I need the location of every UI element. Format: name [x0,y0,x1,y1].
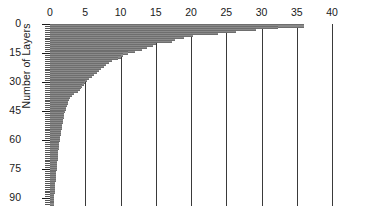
y-tick-78 [45,175,50,176]
y-tick-90 [42,198,50,199]
y-tick-label-90: 90 [0,191,21,203]
y-axis-tick-marks [42,24,50,206]
y-tick-30 [42,82,50,83]
y-tick-52 [45,125,50,126]
y-tick-label-0: 0 [0,17,21,29]
y-tick-label-15: 15 [0,46,21,58]
y-tick-5 [45,34,50,35]
y-tick-6 [45,36,50,37]
y-tick-16 [45,55,50,56]
y-tick-19 [45,61,50,62]
y-tick-69 [45,158,50,159]
y-tick-89 [45,196,50,197]
y-tick-70 [45,160,50,161]
y-tick-64 [45,148,50,149]
y-tick-14 [45,51,50,52]
y-tick-66 [45,152,50,153]
y-tick-51 [45,123,50,124]
y-tick-label-60: 60 [0,133,21,145]
y-tick-58 [45,136,50,137]
y-tick-18 [45,59,50,60]
y-tick-28 [45,78,50,79]
y-tick-83 [45,185,50,186]
y-tick-67 [45,154,50,155]
y-tick-2 [45,28,50,29]
y-tick-65 [45,150,50,151]
y-tick-29 [45,80,50,81]
y-tick-39 [45,100,50,101]
y-tick-20 [45,63,50,64]
y-tick-71 [45,161,50,162]
y-tick-47 [45,115,50,116]
y-tick-57 [45,134,50,135]
y-tick-10 [45,43,50,44]
y-tick-22 [45,67,50,68]
y-tick-21 [45,65,50,66]
y-tick-32 [45,86,50,87]
y-tick-25 [45,72,50,73]
y-tick-label-75: 75 [0,162,21,174]
y-tick-87 [45,192,50,193]
y-tick-24 [45,70,50,71]
y-tick-77 [45,173,50,174]
y-tick-45 [42,111,50,112]
y-tick-11 [45,45,50,46]
y-tick-49 [45,119,50,120]
y-tick-27 [45,76,50,77]
y-tick-54 [45,129,50,130]
y-tick-40 [45,101,50,102]
y-tick-61 [45,142,50,143]
y-tick-59 [45,138,50,139]
bar [50,202,54,205]
y-tick-74 [45,167,50,168]
y-tick-63 [45,146,50,147]
y-tick-62 [45,144,50,145]
y-tick-12 [45,47,50,48]
y-tick-46 [45,113,50,114]
gridline-x-40 [332,24,333,206]
y-tick-56 [45,132,50,133]
y-tick-0 [42,24,50,25]
y-tick-92 [45,202,50,203]
y-tick-75 [42,169,50,170]
y-tick-42 [45,105,50,106]
y-tick-91 [45,200,50,201]
y-tick-73 [45,165,50,166]
y-tick-4 [45,32,50,33]
y-tick-88 [45,194,50,195]
y-tick-48 [45,117,50,118]
y-tick-15 [42,53,50,54]
y-tick-80 [45,179,50,180]
y-tick-31 [45,84,50,85]
y-tick-13 [45,49,50,50]
y-tick-43 [45,107,50,108]
chart-container: Number of Layers 0510152025303540 015304… [0,0,367,212]
y-tick-8 [45,39,50,40]
y-tick-79 [45,177,50,178]
y-tick-85 [45,189,50,190]
bar-series [50,24,332,206]
y-tick-34 [45,90,50,91]
y-tick-7 [45,38,50,39]
y-tick-82 [45,183,50,184]
y-tick-33 [45,88,50,89]
y-tick-81 [45,181,50,182]
y-tick-35 [45,92,50,93]
y-tick-label-45: 45 [0,104,21,116]
y-tick-68 [45,156,50,157]
plot-area [50,24,332,206]
y-tick-84 [45,187,50,188]
y-tick-17 [45,57,50,58]
y-tick-44 [45,109,50,110]
y-tick-26 [45,74,50,75]
y-tick-37 [45,96,50,97]
y-tick-9 [45,41,50,42]
y-tick-50 [45,121,50,122]
y-tick-38 [45,98,50,99]
y-tick-3 [45,30,50,31]
y-tick-label-30: 30 [0,75,21,87]
y-tick-76 [45,171,50,172]
y-tick-36 [45,94,50,95]
y-tick-53 [45,127,50,128]
y-tick-23 [45,69,50,70]
